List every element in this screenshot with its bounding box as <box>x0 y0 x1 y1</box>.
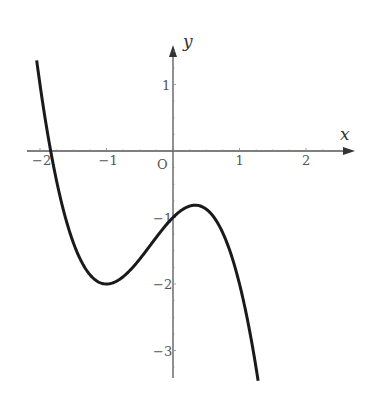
axis-ticks <box>40 51 339 367</box>
x-tick-label: −1 <box>99 153 118 168</box>
x-tick-label: 2 <box>302 153 310 168</box>
x-tick-label: 1 <box>236 153 244 168</box>
x-tick-label: −2 <box>32 153 51 168</box>
x-axis-label: x <box>340 124 350 144</box>
function-graph: x y O −2−112 1−1−2−3 <box>0 0 381 415</box>
origin-label: O <box>157 157 168 172</box>
x-tick-labels: −2−112 <box>32 153 310 168</box>
y-tick-label: −3 <box>153 344 172 359</box>
cubic-curve <box>37 60 258 380</box>
y-tick-label: −2 <box>153 277 172 292</box>
y-tick-labels: 1−1−2−3 <box>153 78 172 359</box>
y-tick-label: 1 <box>162 78 170 93</box>
y-axis-label: y <box>182 31 193 51</box>
